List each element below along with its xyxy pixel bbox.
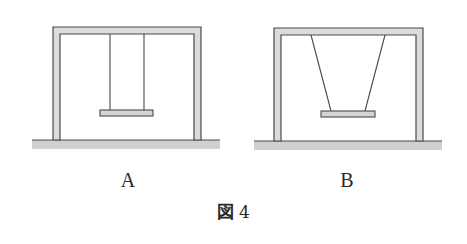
ground-a bbox=[32, 140, 220, 149]
frame-a bbox=[53, 27, 201, 140]
seat-a bbox=[100, 110, 153, 116]
swing-b bbox=[254, 28, 442, 150]
figure-caption: 図4 bbox=[217, 204, 251, 221]
swing-a bbox=[32, 27, 220, 149]
figure-caption-number: 4 bbox=[239, 202, 251, 222]
rope-b-right bbox=[365, 35, 385, 111]
panel-label-a: A bbox=[121, 170, 135, 190]
panel-label-b: B bbox=[340, 170, 353, 190]
frame-b bbox=[274, 28, 423, 141]
rope-b-left bbox=[311, 35, 331, 111]
seat-b bbox=[321, 111, 375, 117]
ground-b bbox=[254, 141, 442, 150]
figure-caption-prefix: 図 bbox=[217, 202, 235, 222]
